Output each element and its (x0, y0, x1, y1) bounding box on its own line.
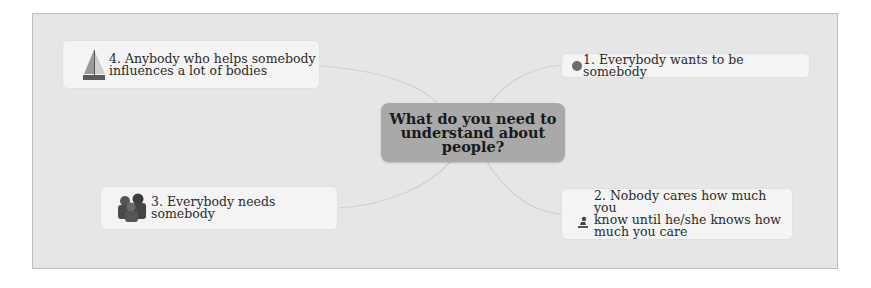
topic-label-1: 1. Everybody wants to be somebody (583, 54, 809, 78)
central-topic[interactable]: What do you need to understand about peo… (381, 103, 565, 162)
sailboat-icon (81, 48, 107, 82)
topic-label-4: 4. Anybody who helps somebody influences… (109, 53, 315, 77)
topic-label-2: 2. Nobody cares how much you know until … (594, 190, 792, 238)
topic-node-3[interactable]: 3. Everybody needs somebody (100, 186, 338, 230)
person-kneeling-icon (576, 216, 590, 230)
topic-node-1[interactable]: 1. Everybody wants to be somebody (561, 53, 810, 78)
topic-node-2[interactable]: 2. Nobody cares how much you know until … (561, 188, 793, 240)
connector-topic-4 (320, 66, 437, 103)
connector-topic-3 (338, 162, 450, 208)
topic-node-4[interactable]: 4. Anybody who helps somebody influences… (62, 40, 320, 89)
connector-topic-2 (487, 162, 562, 214)
connector-topic-1 (490, 65, 562, 103)
people-group-icon (115, 193, 149, 223)
gray-dot-icon (572, 61, 582, 71)
central-topic-label: What do you need to understand about peo… (389, 112, 556, 154)
topic-label-3: 3. Everybody needs somebody (151, 196, 337, 220)
